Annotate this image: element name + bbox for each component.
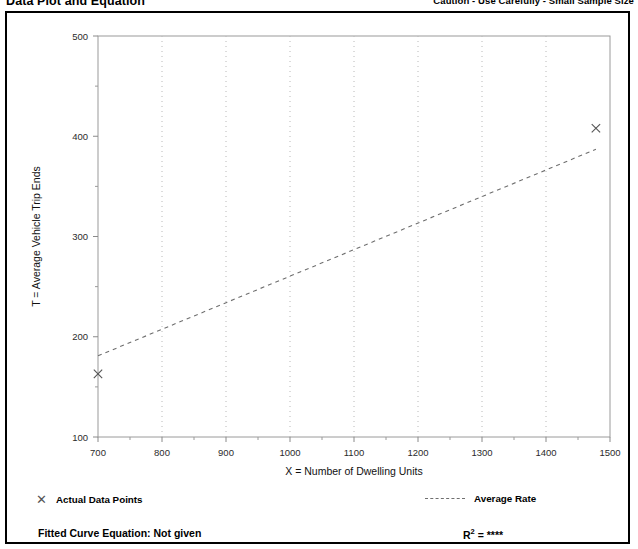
scatter-plot-svg: 7008009001000110012001300140015001002003…: [0, 0, 638, 549]
x-marker-icon: ✕: [36, 493, 47, 506]
y-axis-tick-label: 500: [72, 31, 88, 42]
y-axis-tick-label: 100: [72, 432, 88, 443]
fitted-curve-equation: Fitted Curve Equation: Not given: [38, 527, 201, 539]
x-axis-tick-label: 800: [154, 447, 170, 458]
legend-label-actual-data-points: Actual Data Points: [56, 494, 143, 505]
x-axis-tick-label: 700: [90, 447, 106, 458]
average-rate-trendline: [98, 149, 596, 356]
x-axis-tick-label: 1400: [535, 447, 556, 458]
y-axis-title: T = Average Vehicle Trip Ends: [30, 166, 42, 307]
x-axis-tick-label: 900: [218, 447, 234, 458]
x-axis-tick-label: 1300: [471, 447, 492, 458]
legend-average-rate: Average Rate: [425, 493, 536, 504]
x-axis-tick-label: 1200: [407, 447, 428, 458]
chart-area: 7008009001000110012001300140015001002003…: [0, 0, 638, 549]
r-squared-value: R2 = ****: [463, 527, 503, 541]
x-axis-tick-label: 1100: [344, 447, 364, 458]
legend-label-average-rate: Average Rate: [474, 493, 536, 504]
x-axis-tick-label: 1500: [599, 447, 620, 458]
r2-number: = ****: [475, 529, 503, 541]
x-axis-title: X = Number of Dwelling Units: [285, 465, 422, 477]
y-axis-tick-label: 200: [72, 331, 88, 342]
x-axis-tick-label: 1000: [279, 447, 300, 458]
legend-actual-data-points: ✕ Actual Data Points: [36, 493, 143, 506]
y-axis-tick-label: 400: [72, 131, 88, 142]
r2-prefix: R: [463, 529, 471, 541]
y-axis-tick-label: 300: [72, 231, 88, 242]
dashed-line-icon: [425, 498, 465, 499]
